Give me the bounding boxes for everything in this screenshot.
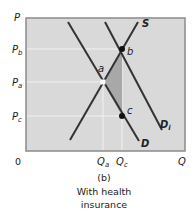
point-b-marker — [119, 46, 125, 52]
y-tick-pc: Pc — [12, 111, 22, 124]
x-tick-qc: Qc — [116, 156, 128, 169]
point-c-marker — [119, 113, 125, 119]
point-a-label: a — [98, 63, 104, 74]
origin-label: 0 — [15, 156, 21, 167]
caption-line-1: With health — [77, 186, 132, 197]
y-tick-pa: Pa — [12, 77, 22, 90]
y-tick-pb: Pb — [12, 44, 23, 57]
y-axis-label: P — [14, 12, 21, 23]
demand-label: D — [141, 138, 149, 149]
x-tick-qa: Qa — [97, 156, 109, 169]
point-c-label: c — [127, 105, 133, 116]
panel-label: (b) — [97, 172, 110, 183]
x-axis-label: Q — [178, 156, 186, 167]
supply-label: S — [142, 18, 149, 29]
point-b-label: b — [127, 46, 133, 57]
caption-line-2: insurance — [81, 199, 128, 210]
health-insurance-diagram: a b c S D Di P Q 0 Pb Pa Pc Qa Qc (b) Wi… — [0, 0, 193, 211]
point-a-marker — [101, 80, 106, 85]
